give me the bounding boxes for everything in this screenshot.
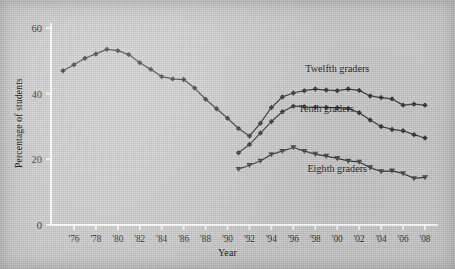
line-chart-plot: 0204060 '76'78'80'82'84'86'88'90'92'94'9…: [0, 0, 455, 269]
x-tick-label: '06: [398, 234, 409, 244]
x-tick-label: '00: [332, 234, 343, 244]
x-tick-label: '96: [288, 234, 299, 244]
data-series: [60, 47, 428, 182]
x-tick-label: '08: [420, 234, 431, 244]
x-tick-label: '04: [376, 234, 387, 244]
x-tick-label: '88: [200, 234, 211, 244]
x-tick-label: '90: [222, 234, 233, 244]
series-twelfth-graders: [60, 47, 427, 139]
y-axis-ticks: 0204060: [32, 23, 52, 231]
x-tick-label: '78: [90, 234, 101, 244]
chart-figure: 0204060 '76'78'80'82'84'86'88'90'92'94'9…: [0, 0, 455, 269]
y-axis-title: Percentage of students: [14, 68, 24, 178]
x-tick-label: '76: [68, 234, 79, 244]
x-tick-label: '82: [134, 234, 145, 244]
x-axis-title: Year: [0, 247, 455, 258]
x-tick-label: '98: [310, 234, 321, 244]
y-tick-label: 60: [32, 23, 43, 34]
x-axis-ticks: '76'78'80'82'84'86'88'90'92'94'96'98'00'…: [68, 225, 430, 244]
y-tick-label: 0: [37, 220, 42, 231]
x-tick-label: '86: [178, 234, 189, 244]
x-tick-label: '94: [266, 234, 277, 244]
y-tick-label: 40: [32, 89, 43, 100]
series-label-eighth-graders: Eighth graders: [307, 163, 367, 174]
x-tick-label: '84: [156, 234, 167, 244]
axis-lines: [51, 24, 437, 225]
x-tick-label: '80: [112, 234, 123, 244]
series-label-tenth-graders: Tenth graders: [298, 103, 354, 114]
series-label-twelfth-graders: Twelfth graders: [305, 63, 369, 74]
x-tick-label: '92: [244, 234, 255, 244]
y-tick-label: 20: [32, 154, 43, 165]
x-tick-label: '02: [354, 234, 365, 244]
